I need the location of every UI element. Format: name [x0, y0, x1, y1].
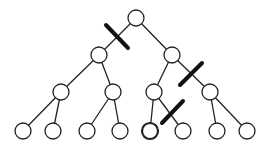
tree-node: [91, 47, 107, 63]
tree-node: [142, 123, 158, 139]
tree-node: [202, 84, 218, 100]
tree-diagram: [0, 0, 272, 150]
tree-node: [239, 123, 255, 139]
tree-node: [112, 123, 128, 139]
tree-node: [105, 84, 121, 100]
tree-node: [209, 123, 225, 139]
tree-node: [79, 123, 95, 139]
tree-node: [164, 47, 180, 63]
tree-node: [15, 123, 31, 139]
tree-edges: [23, 18, 247, 131]
tree-node: [53, 84, 69, 100]
tree-node: [146, 84, 162, 100]
cut-mark: [162, 101, 183, 123]
tree-node: [45, 123, 61, 139]
tree-nodes: [15, 10, 255, 139]
tree-node: [175, 123, 191, 139]
cut-marks: [106, 25, 202, 123]
tree-node: [128, 10, 144, 26]
